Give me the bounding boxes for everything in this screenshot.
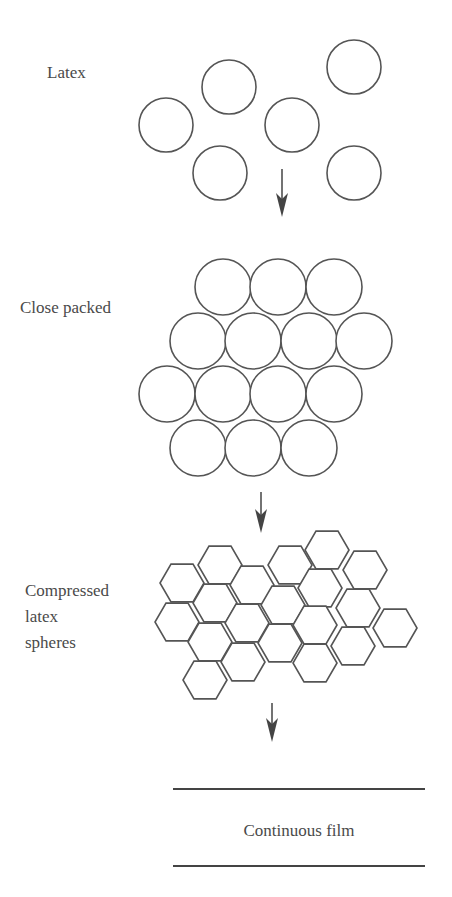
down-arrow-icon [266, 703, 278, 742]
close-packed-particle [306, 259, 362, 315]
compressed-hexagonal-particles [155, 531, 417, 699]
label-line: latex [25, 604, 109, 630]
stage-label-continuous-film: Continuous film [173, 818, 425, 844]
stage-label-compressed-latex-spheres: Compressed latex spheres [25, 578, 109, 656]
latex-particle [327, 40, 381, 94]
close-packed-particle [225, 420, 281, 476]
close-packed-particle [195, 366, 251, 422]
close-packed-particle [139, 366, 195, 422]
close-packed-particle [225, 313, 281, 369]
close-packed-particle [281, 313, 337, 369]
latex-particle [193, 146, 247, 200]
close-packed-particle [306, 366, 362, 422]
stage-label-latex: Latex [47, 60, 86, 86]
dispersed-latex-particles [139, 40, 381, 200]
down-arrow-icon [255, 492, 267, 533]
close-packed-particle [281, 420, 337, 476]
hexagonal-particle [373, 609, 417, 647]
label-line: Compressed [25, 578, 109, 604]
latex-film-formation-diagram [0, 0, 452, 897]
down-arrow-icon [276, 169, 288, 217]
latex-particle [139, 98, 193, 152]
close-packed-particle [170, 313, 226, 369]
latex-particle [327, 146, 381, 200]
close-packed-particle [170, 420, 226, 476]
label-line: spheres [25, 630, 109, 656]
hexagonal-particle [183, 661, 227, 699]
hexagonal-particle [331, 627, 375, 665]
hexagonal-particle [293, 644, 337, 682]
close-packed-particle [250, 259, 306, 315]
close-packed-particle [250, 366, 306, 422]
close-packed-particle [336, 313, 392, 369]
close-packed-particle [195, 259, 251, 315]
stage-label-close-packed: Close packed [20, 295, 111, 321]
hexagonal-particle [336, 589, 380, 627]
hexagonal-particle [343, 551, 387, 589]
latex-particle [202, 60, 256, 114]
latex-particle [265, 98, 319, 152]
close-packed-particles [139, 259, 392, 476]
